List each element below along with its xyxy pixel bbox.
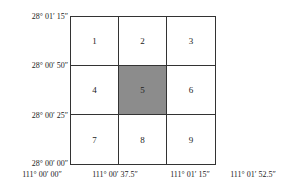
grid-cell-5-shaded: 5	[119, 66, 167, 115]
grid-map: 1 2 3 4 5 6 7 8 9	[70, 16, 216, 165]
grid-cell-2: 2	[119, 17, 167, 66]
latitude-label-bottom: 28° 00′ 00″	[32, 159, 68, 168]
grid-cell-6: 6	[167, 66, 215, 115]
longitude-label-3: 111° 01′ 15″	[170, 170, 210, 179]
latitude-label-top: 28° 01′ 15″	[32, 12, 68, 21]
grid-cell-4: 4	[71, 66, 119, 115]
latitude-label-2: 28° 00′ 50″	[32, 61, 68, 70]
grid-cell-1: 1	[71, 17, 119, 66]
grid-cell-9: 9	[167, 115, 215, 164]
grid-cell-8: 8	[119, 115, 167, 164]
longitude-label-2: 111° 00′ 37.5″	[92, 170, 138, 179]
longitude-label-1: 111° 00′ 00″	[22, 170, 62, 179]
latitude-label-3: 28° 00′ 25″	[32, 111, 68, 120]
grid-cell-7: 7	[71, 115, 119, 164]
longitude-label-4: 111° 01′ 52.5″	[230, 170, 276, 179]
grid-cell-3: 3	[167, 17, 215, 66]
